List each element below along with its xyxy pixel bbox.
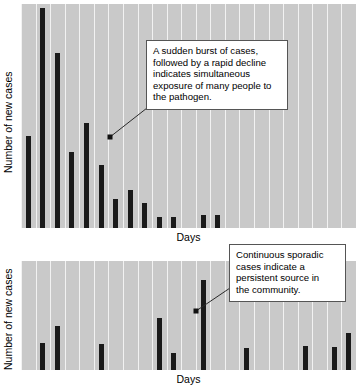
callout-bottom-line-3: persistent source in <box>236 272 340 284</box>
callout-bottom-line-4: the community. <box>236 284 340 296</box>
callout-top: A sudden burst of cases, followed by a r… <box>146 40 288 110</box>
callout-bottom-line-1: Continuous sporadic <box>236 249 340 261</box>
callout-top-line-2: followed by a rapid decline <box>153 57 282 69</box>
callout-top-line-5: the pathogen. <box>153 91 282 103</box>
callout-bottom: Continuous sporadic cases indicate a per… <box>229 244 346 302</box>
callout-top-line-1: A sudden burst of cases, <box>153 45 282 57</box>
callout-top-line-4: exposure of many people to <box>153 80 282 92</box>
epidemic-curve-figure: Number of new cases Days A sudden burst … <box>0 0 356 388</box>
callout-bottom-line-2: cases indicate a <box>236 261 340 273</box>
callout-leader-line-top <box>0 0 356 248</box>
callout-top-line-3: indicates simultaneous <box>153 68 282 80</box>
chart-continuous-source-outbreak: Number of new cases Days Continuous spor… <box>0 248 356 388</box>
chart-point-source-outbreak: Number of new cases Days A sudden burst … <box>0 0 356 248</box>
